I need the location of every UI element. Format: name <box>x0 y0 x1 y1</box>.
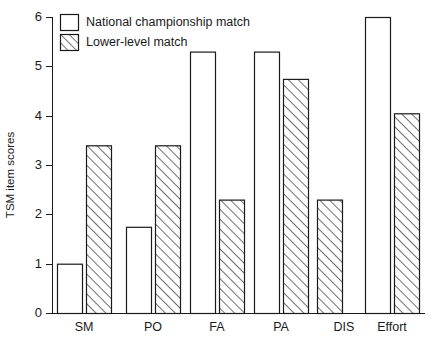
chart-legend: National championship match Lower-level … <box>61 15 251 51</box>
legend-label-lower-level: Lower-level match <box>86 35 187 49</box>
open-square-icon <box>61 15 79 31</box>
x-label-effort: Effort <box>377 320 407 334</box>
bar-group-fa <box>191 52 245 313</box>
bar-po-national[interactable] <box>127 227 152 313</box>
bar-sm-lower-level[interactable] <box>87 146 112 314</box>
bar-group-po <box>127 146 181 314</box>
bar-group-sm <box>58 146 112 314</box>
bar-group-effort <box>366 18 420 314</box>
hatched-square-icon <box>61 35 79 51</box>
x-label-dis: DIS <box>334 320 355 334</box>
bar-group-pa <box>255 52 309 313</box>
bar-fa-lower-level[interactable] <box>220 200 245 313</box>
bar-pa-lower-level[interactable] <box>284 79 309 313</box>
y-tick-label-6: 6 <box>35 9 42 24</box>
x-axis-labels: SM PO FA PA DIS Effort <box>75 320 408 334</box>
bar-group-dis <box>318 200 343 313</box>
y-axis-title: TSM item scores <box>4 132 16 219</box>
y-tick-label-0: 0 <box>35 305 42 320</box>
y-tick-label-3: 3 <box>35 157 42 172</box>
chart-container: 0 1 2 3 4 5 6 TSM item scores <box>0 0 442 347</box>
grouped-bar-chart: 0 1 2 3 4 5 6 TSM item scores <box>0 0 442 347</box>
legend-item-lower-level[interactable]: Lower-level match <box>61 35 188 51</box>
x-label-po: PO <box>144 320 162 334</box>
bar-sm-national[interactable] <box>58 264 83 313</box>
bar-effort-national[interactable] <box>366 18 391 314</box>
bar-pa-national[interactable] <box>255 52 280 313</box>
bar-fa-national[interactable] <box>191 52 216 313</box>
legend-label-national: National championship match <box>86 15 250 29</box>
y-tick-label-4: 4 <box>35 108 42 123</box>
bar-po-lower-level[interactable] <box>156 146 181 314</box>
legend-item-national[interactable]: National championship match <box>61 15 251 31</box>
x-label-sm: SM <box>75 320 94 334</box>
y-tick-label-2: 2 <box>35 206 42 221</box>
bars-group <box>58 18 420 314</box>
bar-dis-lower-level[interactable] <box>318 200 343 313</box>
y-tick-label-5: 5 <box>35 58 42 73</box>
y-tick-label-1: 1 <box>35 256 42 271</box>
x-label-fa: FA <box>209 320 225 334</box>
bar-effort-lower-level[interactable] <box>395 114 420 314</box>
x-label-pa: PA <box>273 320 289 334</box>
